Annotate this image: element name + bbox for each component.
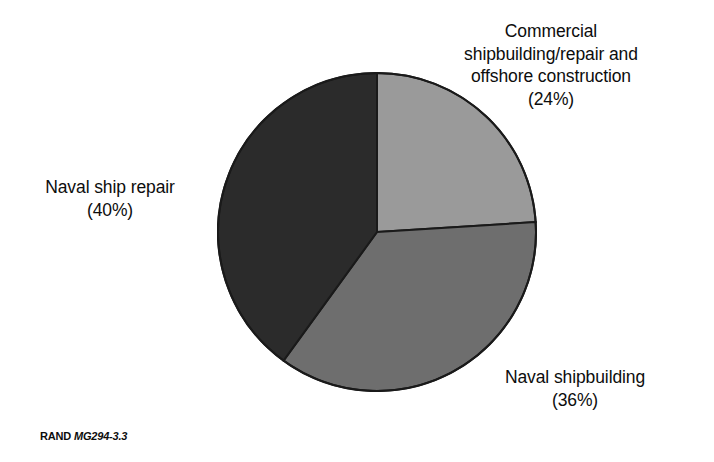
slice-label-commercial: Commercial shipbuilding/repair and offsh… — [398, 20, 704, 110]
figure-caption: RAND MG294-3.3 — [40, 430, 127, 443]
caption-figure-id: MG294-3.3 — [74, 430, 127, 442]
figure-container: Commercial shipbuilding/repair and offsh… — [0, 0, 714, 462]
pie-chart — [217, 72, 537, 392]
slice-label-naval-ship-repair: Naval ship repair (40%) — [8, 176, 212, 221]
slice-label-naval-shipbuilding: Naval shipbuilding (36%) — [464, 366, 686, 411]
pie-chart-svg — [217, 72, 537, 392]
caption-publisher: RAND — [40, 430, 71, 442]
